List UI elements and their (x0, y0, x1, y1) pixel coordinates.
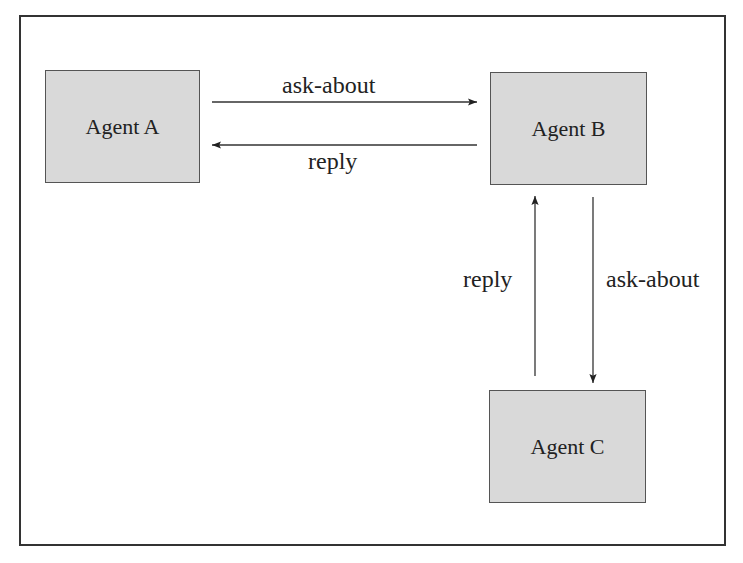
edge-label-c-to-b: reply (463, 266, 512, 293)
edge-label-a-to-b: ask-about (282, 72, 375, 99)
edge-label-b-to-a: reply (308, 148, 357, 175)
edge-label-b-to-c: ask-about (606, 266, 699, 293)
diagram-canvas: Agent A Agent B Agent C ask-about reply … (0, 0, 743, 563)
